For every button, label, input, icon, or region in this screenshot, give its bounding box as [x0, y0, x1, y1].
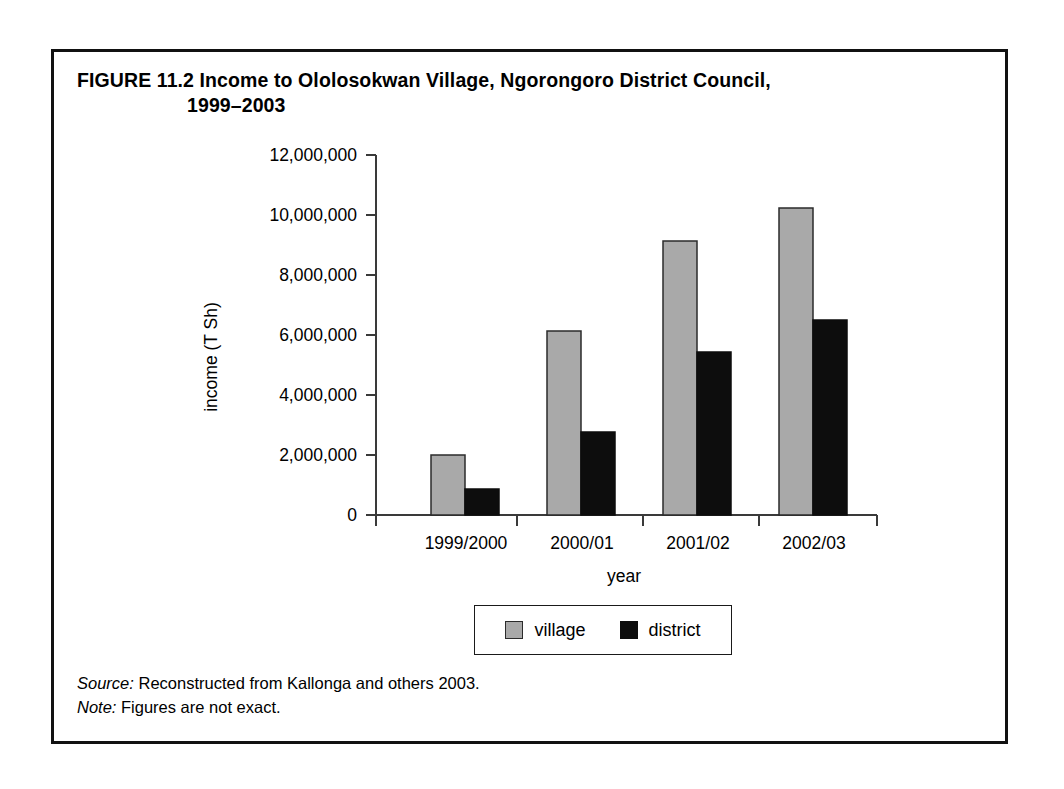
y-axis-title: income (T Sh) — [201, 302, 221, 412]
y-tick-label: 4,000,000 — [279, 385, 357, 405]
y-tick-label: 10,000,000 — [269, 205, 357, 225]
y-tick-label: 8,000,000 — [279, 265, 357, 285]
bar-group-2000-01 — [547, 331, 615, 515]
chart-legend: village district — [474, 605, 732, 655]
bar-district-2000-01 — [581, 432, 615, 515]
bar-district-2001-02 — [697, 352, 731, 515]
bar-village-2001-02 — [663, 241, 697, 515]
figure-note-line: Note: Figures are not exact. — [77, 696, 957, 720]
figure-source-line: Source: Reconstructed from Kallonga and … — [77, 672, 957, 696]
y-tick-label: 6,000,000 — [279, 325, 357, 345]
x-tick-label: 2001/02 — [666, 533, 729, 553]
legend-entry-district: district — [620, 620, 701, 641]
legend-label-village: village — [534, 620, 585, 641]
bar-group-2001-02 — [663, 241, 731, 515]
note-text: Figures are not exact. — [116, 698, 280, 716]
x-axis-title: year — [607, 566, 641, 586]
bar-group-1999-2000 — [431, 455, 499, 515]
x-axis-tick-labels: 1999/2000 2000/01 2001/02 2002/03 — [425, 533, 846, 553]
source-lead: Source: — [77, 674, 134, 692]
chart-plot-area: 12,000,000 10,000,000 8,000,000 6,000,00… — [54, 52, 1005, 741]
bar-village-1999-2000 — [431, 455, 465, 515]
y-tick-label: 12,000,000 — [269, 145, 357, 165]
y-axis-tick-labels: 12,000,000 10,000,000 8,000,000 6,000,00… — [269, 145, 357, 525]
bar-village-2002-03 — [779, 208, 813, 515]
figure-frame: FIGURE 11.2 Income to Ololosokwan Villag… — [51, 49, 1008, 744]
bar-district-1999-2000 — [465, 489, 499, 515]
source-text: Reconstructed from Kallonga and others 2… — [134, 674, 480, 692]
y-axis-ticks — [366, 155, 376, 515]
legend-label-district: district — [649, 620, 701, 641]
x-tick-label: 1999/2000 — [425, 533, 508, 553]
x-tick-label: 2002/03 — [782, 533, 845, 553]
figure-footnotes: Source: Reconstructed from Kallonga and … — [77, 672, 957, 720]
x-axis-ticks — [376, 515, 877, 526]
bar-district-2002-03 — [813, 320, 847, 515]
x-tick-label: 2000/01 — [550, 533, 613, 553]
y-tick-label: 2,000,000 — [279, 445, 357, 465]
bar-group-2002-03 — [779, 208, 847, 515]
legend-swatch-district-icon — [620, 621, 638, 639]
legend-entry-village: village — [505, 620, 585, 641]
bar-chart: 12,000,000 10,000,000 8,000,000 6,000,00… — [54, 52, 1005, 672]
note-lead: Note: — [77, 698, 116, 716]
bar-village-2000-01 — [547, 331, 581, 515]
legend-swatch-village-icon — [505, 621, 523, 639]
y-tick-label: 0 — [347, 505, 357, 525]
